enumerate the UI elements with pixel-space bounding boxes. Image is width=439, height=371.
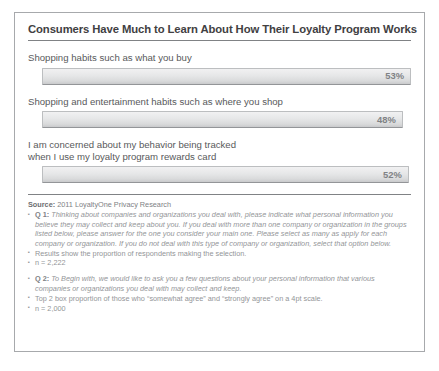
bar-fill: 48%: [42, 111, 403, 128]
footnote-item: n = 2,000: [28, 304, 411, 313]
footnote-item: Q 1: Thinking about companies and organi…: [28, 210, 411, 248]
bar-value-label: 48%: [377, 115, 396, 124]
bar-group: Shopping and entertainment habits such a…: [28, 96, 411, 129]
source-line: Source: 2011 LoyaltyOne Privacy Research: [28, 200, 411, 209]
footnote-item: Results show the proportion of responden…: [28, 249, 411, 258]
footnote-item: Q 2: To Begin with, we would like to ask…: [28, 274, 411, 293]
bar-fill: 53%: [42, 68, 411, 85]
footnote-item: Top 2 box proportion of those who “somew…: [28, 294, 411, 303]
exhibit-frame: Consumers Have Much to Learn About How T…: [14, 12, 425, 352]
footnote-text: Top 2 box proportion of those who “somew…: [35, 294, 323, 303]
bar-fill: 52%: [42, 166, 409, 183]
footnote-list: Q 1: Thinking about companies and organi…: [28, 210, 411, 313]
title-divider: [28, 40, 411, 41]
footnote-text: Thinking about companies and organizatio…: [35, 210, 407, 247]
page-title: Consumers Have Much to Learn About How T…: [28, 22, 411, 36]
footnote-text: n = 2,222: [35, 258, 66, 267]
bar-track: 53%: [42, 68, 411, 85]
bar-value-label: 53%: [385, 71, 404, 80]
bar-group: I am concerned about my behavior being t…: [28, 139, 411, 183]
footnote-text: To Begin with, we would like to ask you …: [35, 274, 375, 292]
bar-value-label: 52%: [383, 170, 402, 179]
bar-label: Shopping and entertainment habits such a…: [28, 96, 411, 108]
bar-label: I am concerned about my behavior being t…: [28, 139, 411, 162]
bar-track: 52%: [42, 166, 411, 183]
bar-group: Shopping habits such as what you buy 53%: [28, 52, 411, 85]
exhibit-page: Consumers Have Much to Learn About How T…: [0, 0, 439, 371]
footnote-tag: Q 1:: [35, 210, 49, 219]
bar-label: Shopping habits such as what you buy: [28, 52, 411, 64]
source-text: 2011 LoyaltyOne Privacy Research: [57, 200, 171, 209]
footnote-item: n = 2,222: [28, 258, 411, 267]
footer-divider: [28, 194, 411, 195]
footnote-text: n = 2,000: [35, 304, 66, 313]
footnote-tag: Q 2:: [35, 274, 49, 283]
bar-chart: Shopping habits such as what you buy 53%…: [28, 52, 411, 183]
bar-track: 48%: [42, 111, 411, 128]
source-label: Source:: [28, 200, 55, 209]
footnote-text: Results show the proportion of responden…: [35, 249, 246, 258]
